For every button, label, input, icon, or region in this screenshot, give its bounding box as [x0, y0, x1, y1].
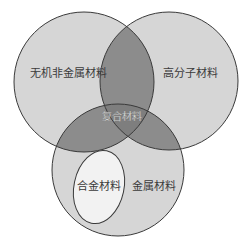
label-polymer: 高分子材料	[163, 66, 218, 80]
venn-diagram: 无机非金属材料 高分子材料 金属材料 合金材料 复合材料	[0, 0, 246, 250]
label-composite: 复合材料	[102, 110, 142, 122]
label-inorganic: 无机非金属材料	[30, 66, 107, 80]
label-metal: 金属材料	[132, 179, 176, 193]
label-alloy: 合金材料	[77, 179, 121, 193]
